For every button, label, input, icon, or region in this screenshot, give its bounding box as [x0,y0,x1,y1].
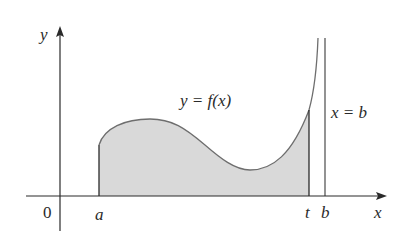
asymptote-label: x = b [330,103,367,122]
shaded-area [99,110,309,196]
curve-label: y = f(x) [178,91,231,110]
tick-label-t: t [305,203,311,222]
tick-label-b: b [321,203,330,222]
tick-label-a: a [95,205,104,224]
y-axis-label: y [38,25,48,44]
x-axis-label: x [373,203,382,222]
diagram-canvas: y x 0 a t b y = f(x) x = b [0,0,410,243]
origin-label: 0 [43,203,52,222]
